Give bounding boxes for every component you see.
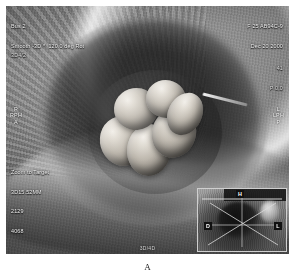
settings-value-2: 4068: [11, 228, 49, 235]
ultrasound-figure: Bus 2 Smooth -3D * 120.0 deg Rot F 25 AB…: [0, 0, 295, 274]
orientation-label-right: L LPH P: [273, 106, 284, 125]
header-left-line1: Bus 2: [11, 23, 84, 30]
ultrasound-viewport[interactable]: Bus 2 Smooth -3D * 120.0 deg Rot F 25 AB…: [6, 6, 289, 254]
inset-marker-l: L: [274, 222, 282, 230]
orientation-inset-panel[interactable]: H D L: [197, 188, 287, 252]
inset-anatomy-dark: [218, 202, 258, 238]
mode-label: 3D/4D: [140, 245, 156, 251]
gain-right-line1: 41: [270, 65, 283, 72]
inset-marker-h: H: [236, 190, 244, 198]
header-right-line2: Dec 20 2000: [247, 43, 283, 50]
orientation-label-left: R RPH A: [10, 106, 22, 125]
fetal-surface-render: [94, 76, 216, 188]
settings-depth: 3D15.52MM: [11, 189, 49, 196]
gain-right-readout: 41 P 0.0: [270, 52, 283, 105]
gain-left-readout: 3D4/2: [11, 52, 26, 59]
inset-marker-d: D: [204, 222, 212, 230]
figure-caption: A: [0, 262, 295, 272]
inset-anatomy-bright: [260, 201, 280, 223]
header-left-line2: Smooth -3D * 120.0 deg Rot: [11, 43, 84, 50]
inset-upper-band: [224, 189, 286, 201]
settings-block: Zoom to Target 3D15.52MM 2129 4068: [11, 156, 49, 248]
settings-zoom-to-target: Zoom to Target: [11, 169, 49, 176]
settings-value-1: 2129: [11, 208, 49, 215]
header-right-line1: F 25 AB94C-9: [247, 23, 283, 30]
gain-right-line2: P 0.0: [270, 85, 283, 92]
